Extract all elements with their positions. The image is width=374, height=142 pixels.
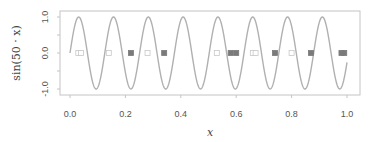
x-tick-label: 0.8: [285, 109, 298, 119]
x-tick-label: 0.2: [119, 109, 132, 119]
filled-square-marker: [128, 51, 133, 56]
open-square-marker: [145, 51, 150, 56]
x-tick-label: 0.6: [230, 109, 243, 119]
y-axis-label: sin(50 · x): [10, 25, 23, 81]
y-tick-label: 0.0: [40, 47, 50, 60]
filled-square-marker: [342, 51, 347, 56]
filled-square-marker: [308, 51, 313, 56]
open-square-marker: [79, 51, 84, 56]
x-axis: 0.00.20.40.60.81.0: [64, 95, 354, 119]
marker-layer: [76, 51, 347, 56]
y-tick-label: 1.0: [40, 11, 50, 24]
chart: 0.00.20.40.60.81.0 1.00.0-1.0 x sin(50 ·…: [0, 0, 374, 142]
filled-square-marker: [162, 51, 167, 56]
open-square-marker: [214, 51, 219, 56]
x-tick-label: 1.0: [341, 109, 354, 119]
filled-square-marker: [234, 51, 239, 56]
open-square-marker: [253, 51, 258, 56]
x-tick-label: 0.4: [175, 109, 188, 119]
filled-square-marker: [228, 51, 233, 56]
x-tick-label: 0.0: [64, 109, 77, 119]
y-tick-label: -1.0: [40, 81, 50, 97]
x-axis-label: x: [207, 126, 214, 139]
open-square-marker: [289, 51, 294, 56]
filled-square-marker: [272, 51, 277, 56]
y-axis: 1.00.0-1.0: [40, 11, 60, 97]
open-square-marker: [106, 51, 111, 56]
